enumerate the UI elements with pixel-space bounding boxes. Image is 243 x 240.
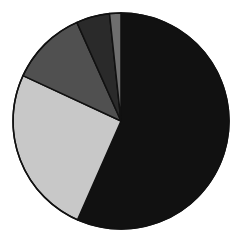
pie-slices [13, 13, 229, 229]
pie-chart [0, 0, 243, 240]
